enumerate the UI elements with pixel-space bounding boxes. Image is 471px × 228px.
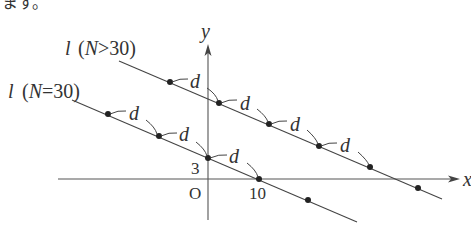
spacing-d-label: d: [179, 123, 190, 145]
header-fragment: ます。: [2, 0, 48, 11]
line-n-greater-30: [119, 61, 442, 199]
line-lower-label-l: l: [8, 80, 14, 102]
y-axis-label: y: [199, 20, 210, 43]
origin-label: O: [189, 184, 201, 203]
line-upper-label-condition: (N>30): [78, 37, 136, 60]
line-lower-label-condition: (N=30): [22, 80, 80, 103]
spacing-d-label: d: [229, 145, 240, 167]
x-axis-label: x: [462, 168, 471, 190]
line-n-equals-30: [72, 100, 357, 222]
spacing-d-label: d: [190, 70, 201, 92]
spacing-d-label: d: [240, 92, 251, 114]
y-tick-3: 3: [191, 159, 200, 178]
line-upper-label-l: l: [65, 37, 71, 59]
spacing-d-label: d: [340, 134, 351, 156]
spacing-d-label: d: [290, 113, 301, 135]
x-tick-10: 10: [249, 184, 266, 203]
diagram-canvas: ます。 x y O 10 3 l (N>30) d d d d: [0, 0, 471, 228]
spacing-d-label: d: [129, 102, 140, 124]
